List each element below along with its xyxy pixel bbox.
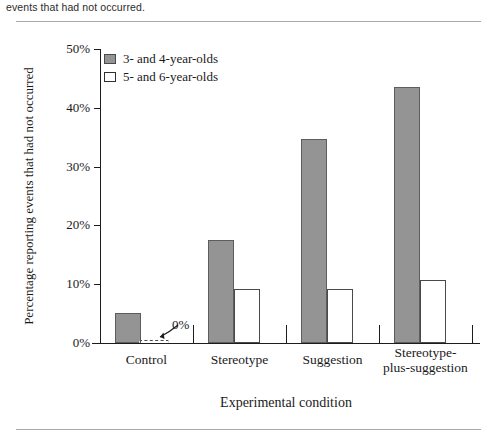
legend-item: 3- and 4-year-olds [104, 51, 218, 67]
chart-legend: 3- and 4-year-olds5- and 6-year-olds [104, 51, 218, 87]
group-separator [286, 325, 287, 343]
bar [301, 139, 327, 343]
x-axis-line [92, 343, 480, 344]
y-tick-mark [94, 343, 100, 344]
y-tick-mark [94, 167, 100, 168]
group-separator [193, 325, 194, 343]
y-axis-title-text: Percentage reporting events that had not… [21, 67, 37, 325]
y-tick-label: 40% [50, 100, 90, 116]
figure-caption: events that had not occurred. [6, 1, 476, 14]
bar [115, 313, 141, 343]
x-category-label-line: plus-suggestion [366, 360, 485, 375]
y-tick-label: 0% [50, 335, 90, 351]
legend-swatch-icon [104, 72, 116, 82]
group-separator [472, 325, 473, 343]
legend-label: 3- and 4-year-olds [123, 51, 218, 67]
x-category-label: Stereotype-plus-suggestion [366, 345, 485, 375]
zero-annotation-label: 0% [172, 317, 189, 333]
figure-page: events that had not occurred. Percentage… [0, 0, 497, 440]
y-tick-mark [94, 108, 100, 109]
legend-label: 5- and 6-year-olds [123, 69, 218, 85]
bottom-divider [16, 429, 481, 430]
y-tick-label: 20% [50, 217, 90, 233]
bar [420, 280, 446, 344]
y-tick-label: 30% [50, 159, 90, 175]
x-category-label: Stereotype [193, 352, 286, 367]
x-axis-title: Experimental condition [100, 395, 472, 411]
y-axis-line [100, 49, 101, 343]
group-separator [379, 325, 380, 343]
top-divider [16, 21, 481, 22]
y-axis-title: Percentage reporting events that had not… [20, 49, 38, 343]
bar [234, 289, 260, 343]
x-category-label: Control [100, 352, 193, 367]
bar [139, 340, 169, 343]
y-tick-mark [94, 284, 100, 285]
bar [208, 240, 234, 343]
x-category-label-line: Stereotype- [366, 345, 485, 360]
y-tick-label: 50% [50, 41, 90, 57]
bar [394, 87, 420, 343]
y-tick-mark [94, 225, 100, 226]
y-tick-mark [94, 49, 100, 50]
legend-swatch-icon [104, 54, 116, 64]
y-tick-label: 10% [50, 276, 90, 292]
legend-item: 5- and 6-year-olds [104, 69, 218, 85]
plot-area: 0%10%20%30%40%50% 0% [100, 49, 472, 343]
bar [327, 289, 353, 343]
